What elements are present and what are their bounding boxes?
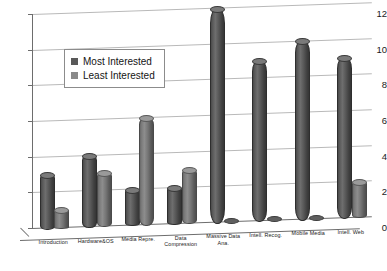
x-axis-label-7: Intell. Web [323, 229, 379, 236]
bar-chart: 12 10 8 6 4 2 0 IntroductionHardware&OSM… [0, 0, 387, 271]
chart-legend: Most Interested Least Interested [64, 49, 165, 88]
legend-swatch-icon-most [71, 58, 78, 65]
legend-label-least: Least Interested [83, 70, 155, 81]
legend-item-most-interested: Most Interested [71, 54, 155, 68]
legend-item-least-interested: Least Interested [71, 68, 155, 82]
x-axis-labels: IntroductionHardware&OSMedia Repre.DataC… [0, 0, 387, 271]
legend-label-most: Most Interested [83, 56, 152, 67]
x-axis-label-line: Intell. Web [323, 229, 379, 236]
x-axis-label-line: Ana. [195, 240, 251, 247]
legend-swatch-icon-least [71, 72, 78, 79]
